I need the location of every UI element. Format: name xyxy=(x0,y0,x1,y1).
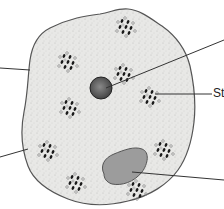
cell-diagram xyxy=(0,0,224,209)
nucleus-body xyxy=(90,77,112,99)
label-right-middle: St xyxy=(213,86,224,100)
leader-left-upper xyxy=(0,68,30,70)
